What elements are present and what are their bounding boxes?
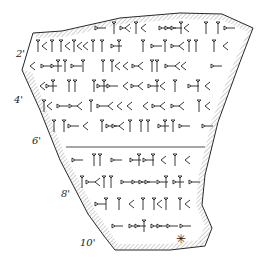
tablet-drawing — [0, 0, 268, 267]
tablet-outline — [22, 13, 253, 250]
line-number: 8' — [61, 188, 70, 199]
line-number: 4' — [14, 94, 23, 105]
line-number: 2' — [16, 48, 25, 59]
line-number: 6' — [32, 135, 41, 146]
line-number: 10' — [80, 237, 95, 248]
asterisk-marker: ✳ — [176, 232, 186, 246]
